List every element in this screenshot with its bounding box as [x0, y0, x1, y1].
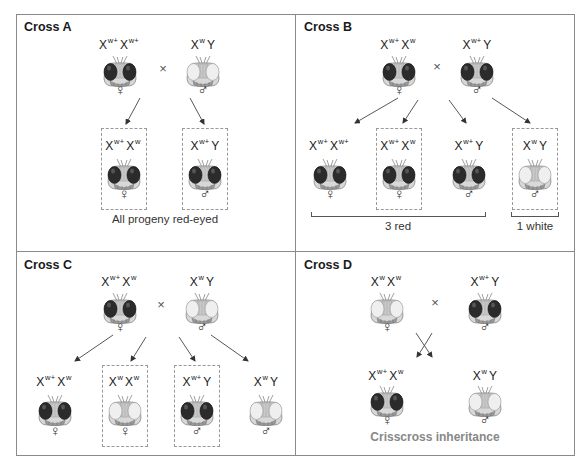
male-symbol-icon: ♂ [479, 319, 490, 334]
female-symbol-icon: ♀ [118, 186, 129, 201]
genotype-progeny: Xw+Xw+ [309, 137, 351, 153]
female-symbol-icon: ♀ [393, 82, 404, 97]
caption-crisscross: Crisscross inheritance [370, 430, 499, 444]
panel-divider-vertical [295, 14, 296, 456]
cross-symbol: × [159, 61, 167, 76]
male-symbol-icon: ♂ [463, 186, 474, 201]
male-symbol-icon: ♂ [479, 412, 490, 427]
genotype-progeny: XwY [523, 137, 548, 153]
female-symbol-icon: ♀ [381, 319, 392, 334]
genotype-progeny: Xw+Xw [380, 137, 417, 153]
female-symbol-icon: ♀ [381, 412, 392, 427]
female-symbol-icon: ♀ [324, 186, 335, 201]
male-symbol-icon: ♂ [199, 186, 210, 201]
female-symbol-icon: ♀ [114, 82, 125, 97]
panel-title: Cross B [304, 20, 352, 34]
genotype-parent-female: Xw+Xw+ [99, 36, 141, 52]
panel-title: Cross D [304, 258, 352, 272]
genotype-parent-female: Xw+Xw [380, 36, 417, 52]
female-symbol-icon: ♀ [114, 319, 125, 334]
genotype-progeny: XwXw [109, 373, 142, 389]
genotype-progeny: XwY [254, 373, 279, 389]
panel-title: Cross C [24, 258, 72, 272]
genotype-parent-female: Xw+Xw [101, 273, 138, 289]
genotype-progeny-male: XwY [473, 367, 498, 383]
male-symbol-icon: ♂ [197, 82, 208, 97]
genotype-progeny-female: Xw+Xw [105, 137, 142, 153]
genotype-progeny-male: Xw+Y [190, 137, 219, 153]
cross-symbol: × [157, 297, 165, 312]
ratio-label-red: 3 red [385, 220, 411, 232]
male-symbol-icon: ♂ [529, 186, 540, 201]
female-symbol-icon: ♀ [119, 423, 130, 438]
caption-all-red: All progeny red-eyed [112, 213, 218, 225]
panel-divider-horizontal [16, 251, 575, 252]
genotype-progeny-female: Xw+Xw [368, 367, 405, 383]
male-symbol-icon: ♂ [471, 82, 482, 97]
genotype-progeny: Xw+Y [454, 137, 483, 153]
genotype-parent-male: XwY [191, 36, 216, 52]
bracket-white [511, 212, 559, 217]
panel-title: Cross A [24, 20, 71, 34]
bracket-red [311, 212, 486, 217]
genotype-parent-male: XwY [190, 273, 215, 289]
genotype-progeny: Xw+Xw [36, 373, 73, 389]
genotype-parent-male: Xw+Y [470, 273, 499, 289]
female-symbol-icon: ♀ [49, 423, 60, 438]
female-symbol-icon: ♀ [393, 186, 404, 201]
cross-symbol: × [431, 295, 439, 310]
male-symbol-icon: ♂ [196, 319, 207, 334]
genotype-parent-male: Xw+Y [462, 36, 491, 52]
ratio-label-white: 1 white [517, 220, 553, 232]
genotype-progeny: Xw+Y [182, 373, 211, 389]
cross-symbol: × [433, 59, 441, 74]
male-symbol-icon: ♂ [260, 423, 271, 438]
male-symbol-icon: ♂ [191, 423, 202, 438]
genotype-parent-female: XwXw [371, 273, 404, 289]
